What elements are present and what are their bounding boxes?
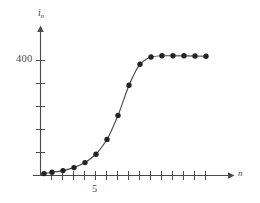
y-axis-label: in: [38, 8, 44, 20]
data-point: [71, 165, 76, 170]
data-point: [93, 152, 98, 157]
chart-figure: in n 400 5: [0, 0, 260, 203]
data-point: [192, 53, 197, 58]
x-axis-label: n: [238, 169, 243, 178]
data-point: [159, 53, 164, 58]
data-point: [41, 171, 46, 176]
fitted-curve: [41, 56, 206, 174]
x-tick-label-5: 5: [92, 184, 97, 195]
data-point: [181, 53, 186, 58]
data-point: [170, 53, 175, 58]
data-point: [203, 54, 208, 59]
data-point: [137, 61, 142, 66]
data-point: [82, 160, 87, 165]
y-axis-label-subscript: n: [41, 12, 44, 19]
data-point: [126, 83, 131, 88]
data-point: [148, 54, 153, 59]
data-point: [115, 113, 120, 118]
data-point-group: [41, 53, 208, 176]
y-tick-label-400: 400: [16, 54, 32, 65]
data-point: [60, 168, 65, 173]
data-point: [104, 137, 109, 142]
data-point: [49, 170, 54, 175]
chart-canvas: [0, 0, 260, 203]
